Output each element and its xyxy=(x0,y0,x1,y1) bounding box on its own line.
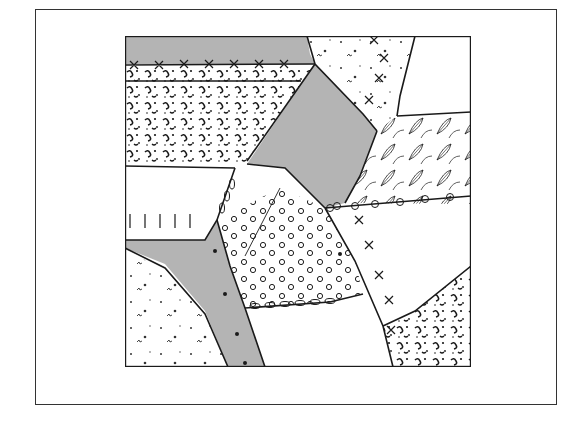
quilt-block xyxy=(125,36,471,367)
patch-top-left-gray xyxy=(125,36,315,64)
